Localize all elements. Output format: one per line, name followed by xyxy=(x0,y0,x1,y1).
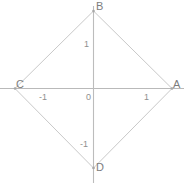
edge-B-A xyxy=(94,11,173,89)
y-tick-label-neg-one: -1 xyxy=(80,140,88,149)
edge-D-C xyxy=(15,89,94,169)
vertex-point-B xyxy=(92,10,95,13)
edge-A-D xyxy=(94,89,173,169)
vertex-label-B: B xyxy=(96,1,103,12)
coordinate-plane-figure: B A C D -1 0 1 1 -1 xyxy=(0,0,184,186)
x-tick-label-pos-one: 1 xyxy=(144,93,149,102)
vertex-label-A: A xyxy=(173,79,180,90)
y-tick-label-pos-one: 1 xyxy=(84,40,89,49)
vertex-point-D xyxy=(92,167,95,170)
edge-C-B xyxy=(15,11,94,89)
plot-canvas xyxy=(0,0,184,186)
vertex-label-D: D xyxy=(96,162,104,173)
x-tick-label-neg-one: -1 xyxy=(39,93,47,102)
origin-label: 0 xyxy=(86,93,91,102)
vertex-label-C: C xyxy=(16,79,24,90)
